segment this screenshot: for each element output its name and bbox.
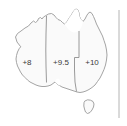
australia-mainland-shape (16, 9, 108, 93)
map-svg: +8 +9.5 +10 (0, 0, 127, 126)
australia-timezone-map: +8 +9.5 +10 (0, 0, 127, 126)
zone-label-western: +8 (22, 58, 32, 67)
zone-label-central: +9.5 (53, 58, 69, 67)
tasmania-shape (84, 100, 94, 114)
zone-label-eastern: +10 (85, 58, 99, 67)
